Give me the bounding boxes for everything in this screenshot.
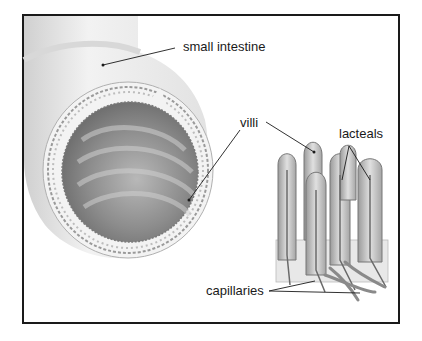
villi-drawing <box>276 142 388 300</box>
label-lacteals: lacteals <box>339 127 383 140</box>
label-capillaries: capillaries <box>206 284 264 297</box>
label-villi: villi <box>240 116 258 129</box>
label-small-intestine: small intestine <box>183 40 265 53</box>
